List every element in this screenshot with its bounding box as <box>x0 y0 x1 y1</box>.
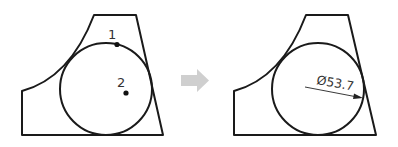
circle-feature <box>60 43 152 135</box>
after-panel: Ø53.7 <box>234 15 376 135</box>
point-label-2: 2 <box>117 75 125 90</box>
diagram-canvas: 1 2 Ø53.7 <box>0 0 398 147</box>
pick-point-2 <box>123 90 128 95</box>
right-arrow-icon <box>181 69 209 92</box>
before-panel: 1 2 <box>22 15 163 135</box>
dimension-arrowhead <box>353 94 363 100</box>
pick-point-1 <box>114 42 119 47</box>
point-label-1: 1 <box>108 27 116 42</box>
